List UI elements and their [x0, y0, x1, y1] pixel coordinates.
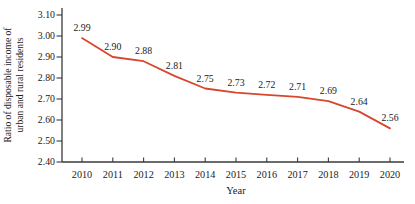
- x-tick-label: 2019: [349, 169, 369, 180]
- data-point-label: 2.90: [104, 41, 121, 52]
- y-axis-title: Ratio of disposable income of urban and …: [2, 5, 26, 165]
- y-tick-label: 2.60: [38, 114, 55, 125]
- chart-figure: 2.402.502.602.702.802.903.003.1020102011…: [0, 0, 415, 204]
- x-axis-title: Year: [206, 185, 266, 196]
- x-tick-label: 2012: [133, 169, 153, 180]
- x-tick-label: 2014: [195, 169, 215, 180]
- data-point-label: 2.64: [351, 96, 368, 107]
- data-point-label: 2.71: [289, 81, 306, 92]
- data-point-label: 2.72: [258, 79, 275, 90]
- x-tick-label: 2020: [380, 169, 400, 180]
- x-tick-label: 2011: [103, 169, 123, 180]
- y-tick-label: 2.40: [38, 156, 55, 167]
- x-tick-label: 2013: [164, 169, 184, 180]
- y-tick-label: 3.10: [38, 9, 55, 20]
- x-tick-label: 2017: [287, 169, 307, 180]
- x-tick-label: 2018: [318, 169, 338, 180]
- y-axis-title-line1: Ratio of disposable income of: [2, 5, 14, 165]
- data-point-label: 2.69: [320, 85, 337, 96]
- x-tick-label: 2016: [257, 169, 277, 180]
- data-point-label: 2.99: [73, 22, 90, 33]
- y-tick-label: 2.70: [38, 93, 55, 104]
- data-point-label: 2.81: [166, 60, 183, 71]
- data-point-label: 2.73: [227, 77, 244, 88]
- y-tick-label: 2.80: [38, 72, 55, 83]
- y-tick-label: 3.00: [38, 30, 55, 41]
- data-point-label: 2.75: [197, 73, 214, 84]
- data-point-label: 2.88: [135, 45, 152, 56]
- x-tick-label: 2015: [226, 169, 246, 180]
- y-tick-label: 2.90: [38, 51, 55, 62]
- y-axis-title-line2: urban and rural residents: [14, 5, 26, 165]
- data-point-label: 2.56: [381, 112, 398, 123]
- line-chart-canvas: 2.402.502.602.702.802.903.003.1020102011…: [0, 0, 415, 204]
- x-tick-label: 2010: [72, 169, 92, 180]
- y-tick-label: 2.50: [38, 135, 55, 146]
